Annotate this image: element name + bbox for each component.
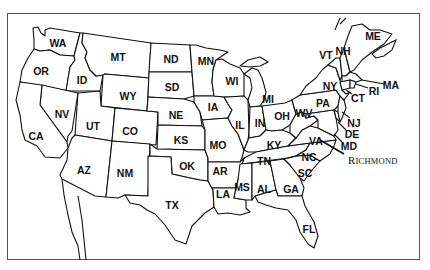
state-label-ma: MA xyxy=(383,80,399,91)
state-label-ok: OK xyxy=(179,161,195,172)
state-label-ut: UT xyxy=(86,121,100,132)
state-label-nm: NM xyxy=(117,168,133,179)
state-label-az: AZ xyxy=(77,165,91,176)
state-ct xyxy=(340,80,350,90)
state-label-ct: CT xyxy=(351,93,365,104)
state-label-in: IN xyxy=(255,118,266,129)
state-label-nd: ND xyxy=(163,54,178,65)
city-rest: ICHMOND xyxy=(356,156,398,166)
state-label-md: MD xyxy=(341,141,357,152)
state-ri xyxy=(350,80,356,88)
state-label-il: IL xyxy=(235,120,244,131)
state-label-pa: PA xyxy=(316,98,330,109)
state-label-ia: IA xyxy=(208,102,219,113)
state-label-nj: NJ xyxy=(347,118,360,129)
state-label-fl: FL xyxy=(303,224,316,235)
state-label-ca: CA xyxy=(28,131,43,142)
state-label-sd: SD xyxy=(165,82,180,93)
leader-ri xyxy=(356,84,368,88)
state-label-wi: WI xyxy=(226,76,239,87)
state-label-de: DE xyxy=(345,129,360,140)
state-label-me: ME xyxy=(365,31,381,42)
state-label-co: CO xyxy=(122,126,138,137)
state-label-wa: WA xyxy=(50,38,67,49)
state-label-or: OR xyxy=(33,66,49,77)
state-label-la: LA xyxy=(216,189,230,200)
state-label-tx: TX xyxy=(165,200,178,211)
state-label-vt: VT xyxy=(319,50,332,61)
state-label-tn: TN xyxy=(257,156,271,167)
state-label-ne: NE xyxy=(169,110,184,121)
state-label-va: VA xyxy=(309,136,323,147)
state-label-ms: MS xyxy=(234,182,250,193)
state-label-wv: WV xyxy=(296,108,313,119)
state-nj xyxy=(338,96,346,122)
state-label-nv: NV xyxy=(55,109,70,120)
state-label-oh: OH xyxy=(274,111,290,122)
state-label-ky: KY xyxy=(267,140,282,151)
leader-ma xyxy=(362,80,384,84)
canada-border-ne xyxy=(335,18,346,30)
city-label-richmond: RICHMOND xyxy=(348,155,398,166)
city-initial: R xyxy=(348,154,356,166)
state-fl xyxy=(255,190,318,248)
state-label-al: AL xyxy=(257,184,271,195)
state-label-wy: WY xyxy=(120,91,137,102)
state-label-nh: NH xyxy=(335,46,350,57)
state-label-mi: MI xyxy=(262,94,274,105)
state-label-mn: MN xyxy=(198,56,214,67)
state-label-mt: MT xyxy=(110,52,125,63)
state-label-sc: SC xyxy=(298,168,313,179)
state-label-ks: KS xyxy=(174,135,189,146)
state-label-mo: MO xyxy=(210,140,227,151)
state-label-id: ID xyxy=(77,75,88,86)
state-label-nc: NC xyxy=(301,152,316,163)
state-label-ri: RI xyxy=(369,86,380,97)
coastline-baja xyxy=(62,179,86,260)
state-label-ny: NY xyxy=(323,81,338,92)
state-label-ga: GA xyxy=(283,184,299,195)
state-label-ar: AR xyxy=(212,166,227,177)
